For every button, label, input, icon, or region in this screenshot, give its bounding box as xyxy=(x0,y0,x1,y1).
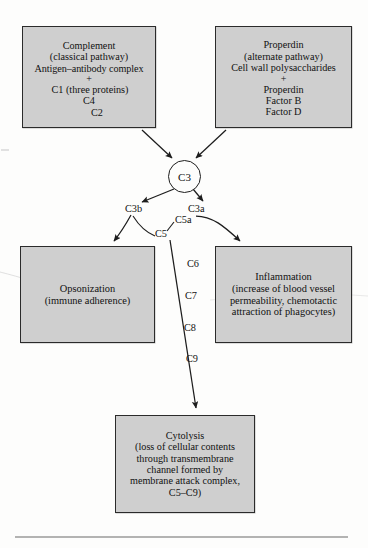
box-cytolysis-line-4: channel formed by xyxy=(119,464,251,475)
edge-label-c5: C5 xyxy=(155,228,167,239)
box-inflammation[interactable]: Inflammation (increase of blood vessel p… xyxy=(215,246,352,343)
box-cytolysis-line-5: membrane attack complex, xyxy=(119,475,251,486)
box-cytolysis-line-2: (loss of cellular contents xyxy=(119,441,251,452)
diagram-canvas: Complement (classical pathway) Antigen–a… xyxy=(0,0,368,548)
box-complement-line-5: C1 (three proteins) xyxy=(26,84,152,95)
box-cytolysis-line-6: C5–C9) xyxy=(119,487,251,498)
arrow-c3b-to-opsonization xyxy=(114,215,131,241)
box-properdin-line-7: Factor D xyxy=(219,106,348,117)
box-properdin[interactable]: Properdin (alternate pathway) Cell wall … xyxy=(215,26,352,128)
box-properdin-line-2: (alternate pathway) xyxy=(219,51,348,62)
box-complement-plus: + xyxy=(26,74,152,84)
box-complement-line-2: (classical pathway) xyxy=(26,51,152,62)
edge-label-c8: C8 xyxy=(184,322,196,333)
arrow-c3-to-c3a xyxy=(193,189,203,201)
box-complement[interactable]: Complement (classical pathway) Antigen–a… xyxy=(22,26,156,128)
arrow-complement-to-c3 xyxy=(142,130,172,158)
arrow-properdin-to-c3 xyxy=(196,130,226,158)
box-opsonization-line-2: (immune adherence) xyxy=(24,295,151,307)
box-properdin-line-6: Factor B xyxy=(219,95,348,106)
edge-label-c3a: C3a xyxy=(188,203,205,214)
connector-c5a-to-c5 xyxy=(167,222,174,231)
node-c3[interactable]: C3 xyxy=(168,160,201,193)
box-complement-line-7: C2 xyxy=(26,107,152,118)
edge-label-c6: C6 xyxy=(187,258,199,269)
box-opsonization[interactable]: Opsonization (immune adherence) xyxy=(20,246,155,343)
box-complement-line-6: C4 xyxy=(26,95,152,106)
box-properdin-line-1: Properdin xyxy=(219,39,348,50)
box-properdin-line-5: Properdin xyxy=(219,84,348,95)
node-c3-label: C3 xyxy=(178,171,191,183)
box-inflammation-line-1: Inflammation xyxy=(219,271,348,283)
arrow-c3-to-c3b xyxy=(142,189,174,202)
box-properdin-line-3: Cell wall polysaccharides xyxy=(219,62,348,73)
edge-label-c9: C9 xyxy=(186,353,198,364)
box-inflammation-line-4: attraction of phagocytes) xyxy=(219,306,348,318)
box-complement-line-1: Complement xyxy=(26,40,152,51)
edge-label-c5a: C5a xyxy=(175,214,192,225)
box-opsonization-line-1: Opsonization xyxy=(24,283,151,295)
box-properdin-plus: + xyxy=(219,74,348,84)
edge-label-c7: C7 xyxy=(185,290,197,301)
connector-c5-hook xyxy=(133,216,155,236)
box-inflammation-line-3: permeability, chemotactic xyxy=(219,295,348,307)
box-inflammation-line-2: (increase of blood vessel xyxy=(219,283,348,295)
box-cytolysis-line-1: Cytolysis xyxy=(119,430,251,441)
arrow-c3a-to-inflammation xyxy=(196,216,240,241)
edge-label-c3b: C3b xyxy=(125,203,142,214)
box-cytolysis-line-3: through transmembrane xyxy=(119,453,251,464)
box-cytolysis[interactable]: Cytolysis (loss of cellular contents thr… xyxy=(115,415,255,513)
